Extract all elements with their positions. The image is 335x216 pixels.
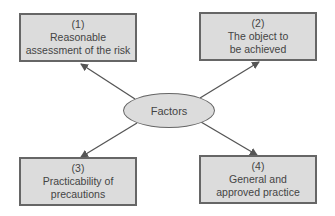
factor-box-2: (2) The object to be achieved: [199, 12, 317, 61]
factor-box-4: (4) General and approved practice: [199, 155, 317, 204]
arrow-to-box-2: [200, 62, 259, 98]
factor-number: (1): [72, 18, 85, 31]
factor-text-line: General and: [229, 173, 287, 186]
factor-box-1: (1) Reasonable assessment of the risk: [19, 13, 137, 62]
factor-number: (2): [252, 17, 265, 30]
arrow-to-box-3: [81, 123, 137, 157]
factors-center-node: Factors: [123, 93, 215, 128]
arrow-to-box-1: [81, 64, 135, 99]
factor-text-line: Practicability of: [43, 175, 114, 188]
factor-text-line: approved practice: [216, 186, 299, 199]
factor-text-line: The object to: [228, 30, 289, 43]
factor-text-line: be achieved: [230, 43, 287, 56]
factor-box-3: (3) Practicability of precautions: [19, 157, 137, 206]
factor-text-line: precautions: [51, 188, 105, 201]
factors-diagram: (1) Reasonable assessment of the risk (2…: [0, 0, 335, 216]
factor-text-line: assessment of the risk: [26, 44, 130, 57]
center-label: Factors: [151, 105, 188, 117]
factor-number: (3): [72, 162, 85, 175]
factor-number: (4): [252, 160, 265, 173]
arrow-to-box-4: [201, 122, 257, 155]
factor-text-line: Reasonable: [50, 31, 106, 44]
